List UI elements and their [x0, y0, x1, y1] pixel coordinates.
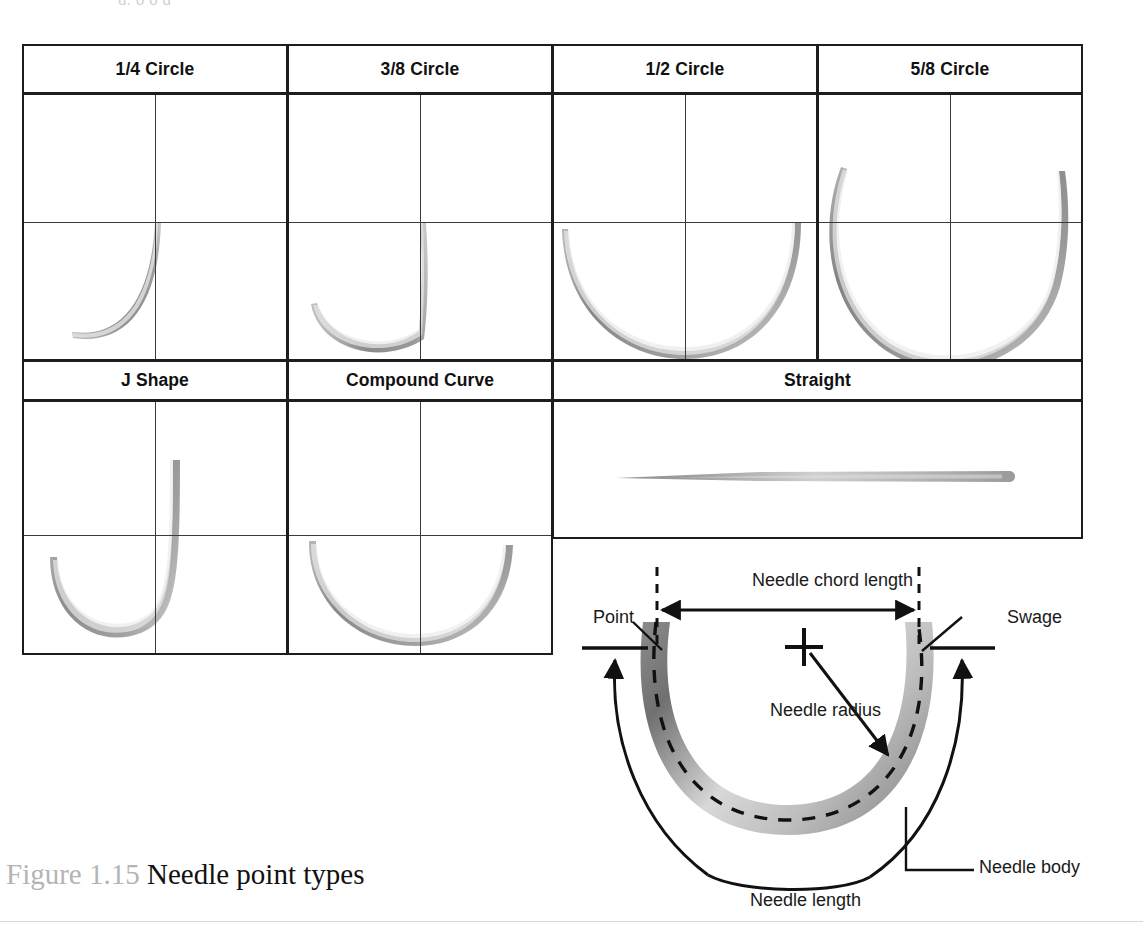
- header-label: 1/4 Circle: [116, 59, 195, 80]
- page-top-cutoff-text: u, o o g: [118, 0, 171, 5]
- label-needle-chord-length: Needle chord length: [752, 570, 913, 591]
- straight-needle: [554, 402, 1081, 537]
- cell-vertical-guide: [420, 402, 421, 653]
- needle-anatomy-diagram: Needle chord length Point Swage Needle r…: [570, 555, 1143, 915]
- cell-three-eighths-circle: [287, 93, 553, 361]
- label-point: Point: [593, 607, 634, 628]
- label-needle-body: Needle body: [979, 857, 1080, 878]
- needle-body-shape: [641, 622, 934, 835]
- header-label: J Shape: [121, 370, 189, 391]
- cell-horizontal-guide: [24, 222, 286, 223]
- label-swage: Swage: [1007, 607, 1062, 628]
- header-label: Straight: [784, 370, 851, 391]
- header-label: Compound Curve: [346, 370, 494, 391]
- figure-page: u, o o g 1/4 Circle 3/8 Circle 1/2 Circl…: [0, 0, 1143, 946]
- header-compound-curve: Compound Curve: [287, 360, 553, 401]
- header-three-eighths-circle: 3/8 Circle: [287, 44, 553, 94]
- header-j-shape: J Shape: [22, 360, 288, 401]
- needle-length-arc-bottom: [708, 875, 870, 890]
- cell-compound-curve: [287, 400, 553, 655]
- cell-horizontal-guide: [554, 222, 816, 223]
- figure-caption: Figure 1.15 Needle point types: [6, 858, 364, 891]
- page-bottom-rule: [0, 921, 1143, 922]
- cell-horizontal-guide: [24, 535, 286, 536]
- header-quarter-circle: 1/4 Circle: [22, 44, 288, 94]
- cell-horizontal-guide: [289, 222, 551, 223]
- figure-title: Needle point types: [147, 858, 364, 890]
- figure-number: Figure 1.15: [6, 858, 140, 890]
- cell-horizontal-guide: [819, 222, 1081, 223]
- cell-vertical-guide: [950, 95, 951, 359]
- cell-vertical-guide: [155, 402, 156, 653]
- cell-horizontal-guide: [289, 535, 551, 536]
- cell-half-circle: [552, 93, 818, 361]
- cell-straight: [552, 400, 1083, 539]
- header-label: 5/8 Circle: [911, 59, 990, 80]
- needle-body-leader: [906, 807, 974, 870]
- cell-five-eighths-circle: [817, 93, 1083, 361]
- header-half-circle: 1/2 Circle: [552, 44, 818, 94]
- label-needle-length: Needle length: [750, 890, 861, 911]
- cell-vertical-guide: [420, 95, 421, 359]
- label-needle-radius: Needle radius: [770, 700, 881, 721]
- cell-j-shape: [22, 400, 288, 655]
- cell-quarter-circle: [22, 93, 288, 361]
- header-straight: Straight: [552, 360, 1083, 401]
- cell-vertical-guide: [155, 95, 156, 359]
- header-five-eighths-circle: 5/8 Circle: [817, 44, 1083, 94]
- header-label: 3/8 Circle: [381, 59, 460, 80]
- cell-vertical-guide: [685, 95, 686, 359]
- header-label: 1/2 Circle: [646, 59, 725, 80]
